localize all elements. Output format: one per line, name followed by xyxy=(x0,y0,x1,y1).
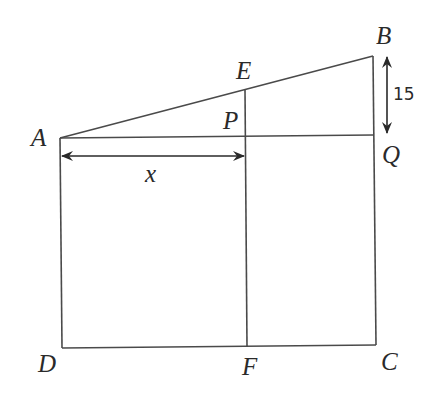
label-q: Q xyxy=(382,141,400,168)
x-dimension-label: x xyxy=(144,160,156,187)
segment-ab xyxy=(60,56,373,138)
geometry-diagram: A E P B Q D F C x 15 xyxy=(0,0,433,395)
bq-dimension-label: 15 xyxy=(393,84,415,104)
segment-bc xyxy=(373,56,376,345)
segment-ef xyxy=(245,90,247,347)
segment-ad xyxy=(60,138,62,348)
label-c: C xyxy=(381,348,398,375)
segment-dc xyxy=(62,345,376,348)
label-p: P xyxy=(222,107,238,134)
label-d: D xyxy=(37,350,56,377)
label-f: F xyxy=(241,353,258,380)
label-e: E xyxy=(235,57,251,84)
label-b: B xyxy=(376,22,391,49)
segment-aq xyxy=(60,135,373,138)
label-a: A xyxy=(29,124,47,151)
